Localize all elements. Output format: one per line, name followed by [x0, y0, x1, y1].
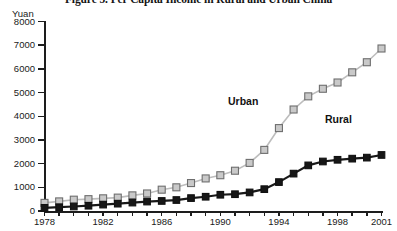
data-point-marker: [290, 170, 297, 177]
data-point-marker: [173, 197, 180, 204]
data-point-marker: [114, 200, 121, 207]
series-rural: [41, 152, 385, 211]
data-point-marker: [217, 191, 224, 198]
data-point-marker: [349, 69, 356, 76]
data-point-marker: [202, 193, 209, 200]
data-point-marker: [217, 172, 224, 179]
chart-figure: Figure 5. Per Capita Income in Rural and…: [0, 0, 397, 231]
data-point-marker: [363, 59, 370, 66]
series-line: [45, 155, 382, 208]
data-point-marker: [41, 205, 48, 212]
data-point-marker: [158, 198, 165, 205]
data-point-marker: [188, 195, 195, 202]
series-line: [45, 49, 382, 203]
data-point-marker: [71, 203, 78, 210]
data-point-marker: [232, 191, 239, 198]
data-point-marker: [334, 156, 341, 163]
data-point-marker: [246, 159, 253, 166]
data-point-marker: [275, 125, 282, 132]
data-point-marker: [305, 93, 312, 100]
series-label-rural: Rural: [325, 113, 352, 125]
data-point-marker: [364, 154, 371, 161]
series-label-urban: Urban: [228, 95, 258, 107]
data-point-marker: [173, 184, 180, 191]
data-point-marker: [349, 155, 356, 162]
data-point-marker: [378, 152, 385, 159]
data-point-marker: [70, 196, 77, 203]
data-point-marker: [305, 162, 312, 169]
series-urban: [41, 45, 385, 206]
data-point-marker: [290, 106, 297, 113]
data-point-marker: [100, 201, 107, 208]
data-point-marker: [378, 45, 385, 52]
data-point-marker: [129, 192, 136, 199]
data-point-marker: [56, 204, 63, 211]
data-point-marker: [320, 158, 327, 165]
data-point-marker: [202, 175, 209, 182]
data-point-marker: [144, 198, 151, 205]
data-point-marker: [85, 196, 92, 203]
data-point-marker: [261, 186, 268, 193]
data-point-marker: [129, 199, 136, 206]
data-point-marker: [276, 179, 283, 186]
data-point-marker: [158, 186, 165, 193]
data-point-marker: [188, 180, 195, 187]
data-point-marker: [319, 85, 326, 92]
data-point-marker: [85, 202, 92, 209]
data-point-marker: [334, 79, 341, 86]
data-point-marker: [231, 167, 238, 174]
data-point-marker: [261, 146, 268, 153]
data-point-marker: [246, 189, 253, 196]
data-point-marker: [144, 190, 151, 197]
